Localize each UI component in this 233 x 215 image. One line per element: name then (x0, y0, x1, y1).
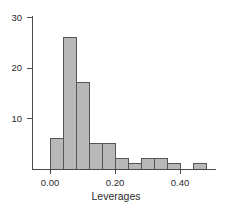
plot-area: 0.000.200.40 102030 Leverages (0, 0, 233, 215)
y-axis-ticks: 102030 (11, 12, 33, 124)
x-tick-label: 0.20 (106, 177, 125, 188)
histogram-bar (141, 159, 154, 169)
histogram-bar (128, 164, 141, 169)
y-tick-label: 30 (11, 12, 22, 23)
x-axis-ticks: 0.000.200.40 (41, 169, 190, 188)
histogram-bar (63, 37, 76, 169)
histogram-bar (89, 144, 102, 169)
x-tick-label: 0.40 (171, 177, 190, 188)
y-tick-label: 10 (11, 113, 22, 124)
histogram-bar (167, 164, 180, 169)
histogram-bar (115, 159, 128, 169)
histogram-chart: 0.000.200.40 102030 Leverages (0, 0, 233, 215)
histogram-bar (76, 83, 89, 169)
x-tick-label: 0.00 (41, 177, 60, 188)
histogram-bars (50, 37, 206, 169)
histogram-bar (50, 139, 63, 169)
histogram-bar (193, 164, 206, 169)
x-axis-title: Leverages (91, 190, 140, 202)
histogram-bar (102, 144, 115, 169)
y-tick-label: 20 (11, 62, 22, 73)
histogram-bar (154, 159, 167, 169)
